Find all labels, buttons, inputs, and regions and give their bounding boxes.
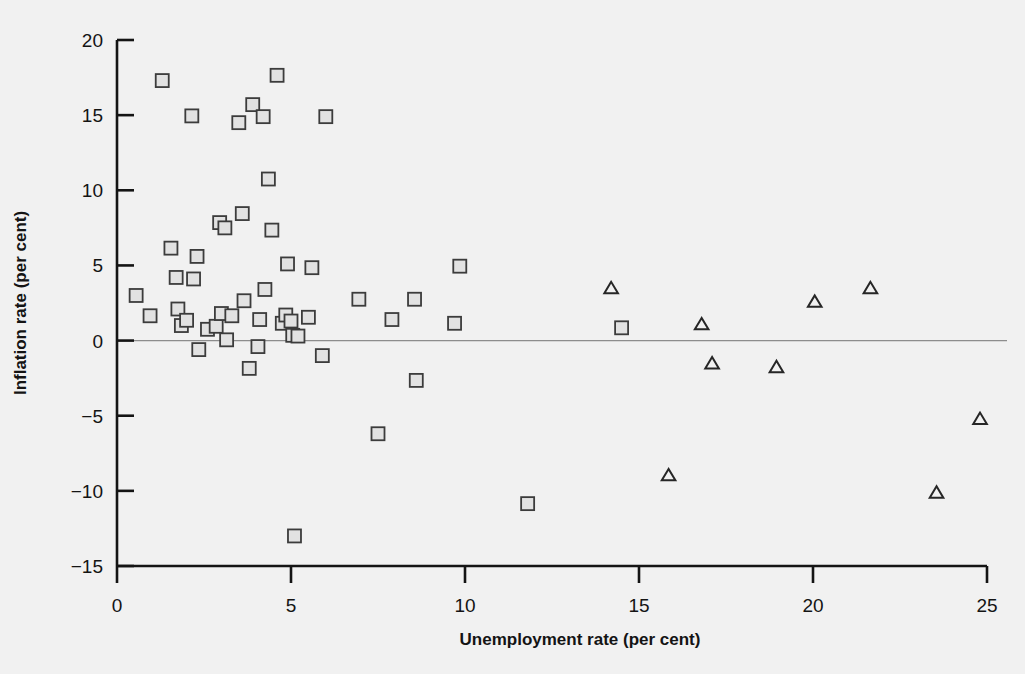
data-point-square	[191, 250, 204, 263]
data-point-square	[316, 349, 329, 362]
y-axis-tick-label: 20	[82, 30, 103, 51]
data-point-square	[615, 321, 628, 334]
data-point-square	[257, 110, 270, 123]
y-axis-tick-label: 10	[82, 180, 103, 201]
data-point-square	[164, 242, 177, 255]
series-triangle-series	[604, 282, 986, 498]
data-point-square	[408, 293, 421, 306]
y-axis-tick-label: 15	[82, 105, 103, 126]
data-point-square	[144, 309, 157, 322]
data-point-square	[285, 315, 298, 328]
data-point-square	[291, 330, 304, 343]
data-point-square	[410, 374, 423, 387]
y-axis-tick-label: 0	[92, 331, 103, 352]
data-point-square	[220, 333, 233, 346]
data-point-square	[180, 314, 193, 327]
data-point-square	[243, 362, 256, 375]
data-point-triangle	[662, 469, 676, 480]
data-point-square	[372, 427, 385, 440]
data-point-square	[236, 207, 249, 220]
x-axis-tick-label: 5	[286, 595, 297, 616]
data-point-triangle	[930, 486, 944, 497]
data-point-square	[521, 497, 534, 510]
data-point-square	[453, 260, 466, 273]
x-axis-tick-label: 15	[628, 595, 649, 616]
x-axis-tick-label: 20	[802, 595, 823, 616]
data-point-square	[265, 224, 278, 237]
data-point-square	[288, 529, 301, 542]
data-point-square	[251, 340, 264, 353]
data-point-square	[192, 343, 205, 356]
data-point-square	[210, 320, 223, 333]
y-axis-tick-label: 5	[92, 255, 103, 276]
data-point-square	[262, 173, 275, 186]
data-point-square	[225, 309, 238, 322]
x-axis-tick-label: 25	[976, 595, 997, 616]
data-point-square	[238, 294, 251, 307]
data-point-square	[281, 257, 294, 270]
data-point-square	[258, 283, 271, 296]
data-point-triangle	[973, 413, 987, 424]
data-point-square	[170, 271, 183, 284]
data-point-square	[352, 293, 365, 306]
data-point-triangle	[808, 295, 822, 306]
data-point-square	[185, 109, 198, 122]
scatter-plot: 20151050−5−10−150510152025Unemployment r…	[0, 0, 1025, 674]
x-axis-title: Unemployment rate (per cent)	[460, 630, 701, 649]
data-point-square	[448, 317, 461, 330]
data-point-square	[130, 289, 143, 302]
data-point-square	[156, 74, 169, 87]
x-axis-tick-label: 0	[112, 595, 123, 616]
data-point-triangle	[864, 282, 878, 293]
data-point-triangle	[770, 361, 784, 372]
series-square-series	[130, 69, 628, 543]
data-point-square	[302, 311, 315, 324]
x-axis-tick-label: 10	[454, 595, 475, 616]
y-axis-tick-label: −5	[81, 406, 103, 427]
y-axis-title: Inflation rate (per cent)	[11, 211, 30, 395]
data-point-square	[305, 261, 318, 274]
data-point-triangle	[695, 318, 709, 329]
data-point-square	[271, 69, 284, 82]
data-point-square	[319, 110, 332, 123]
data-point-square	[218, 221, 231, 234]
y-axis-tick-label: −15	[71, 556, 103, 577]
data-point-square	[232, 116, 245, 129]
data-point-triangle	[604, 282, 618, 293]
data-point-square	[253, 313, 266, 326]
data-point-square	[187, 272, 200, 285]
data-point-triangle	[705, 357, 719, 368]
chart-figure: 20151050−5−10−150510152025Unemployment r…	[0, 0, 1025, 674]
data-points-group	[130, 69, 987, 543]
data-point-square	[246, 98, 259, 111]
data-point-square	[385, 313, 398, 326]
y-axis-tick-label: −10	[71, 481, 103, 502]
